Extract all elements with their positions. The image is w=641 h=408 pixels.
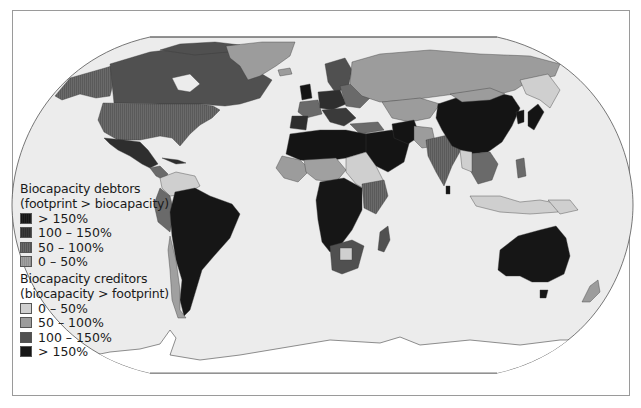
legend-item: > 150%: [20, 211, 169, 226]
legend-swatch: [20, 332, 32, 343]
legend-item: > 150%: [20, 345, 169, 360]
legend-swatch: [20, 346, 32, 357]
legend-item: 50 – 100%: [20, 240, 169, 255]
legend-swatch: [20, 256, 32, 267]
philippines: [516, 158, 526, 178]
legend-swatch: [20, 317, 32, 328]
legend-debtors-subtitle: (footprint > biocapacity): [20, 196, 169, 211]
uk: [300, 84, 312, 100]
legend-label: 0 – 50%: [38, 254, 88, 269]
legend-label: > 150%: [38, 211, 88, 226]
botswana: [340, 248, 352, 260]
legend-swatch: [20, 303, 32, 314]
legend-item: 100 – 150%: [20, 330, 169, 345]
legend-item: 100 – 150%: [20, 226, 169, 241]
legend-creditors-title: Biocapacity creditors: [20, 271, 169, 286]
sri-lanka: [446, 186, 450, 194]
legend-swatch: [20, 242, 32, 253]
legend-label: 50 – 100%: [38, 240, 104, 255]
legend-item: 50 – 100%: [20, 316, 169, 331]
legend-item: 0 – 50%: [20, 255, 169, 270]
legend-creditors-subtitle: (biocapacity > footprint): [20, 286, 169, 301]
legend-label: 100 – 150%: [38, 330, 112, 345]
legend-swatch: [20, 213, 32, 224]
legend-debtors-title: Biocapacity debtors: [20, 181, 169, 196]
legend-label: 100 – 150%: [38, 225, 112, 240]
iberia: [290, 116, 308, 130]
legend-label: 0 – 50%: [38, 301, 88, 316]
legend-label: > 150%: [38, 344, 88, 359]
legend-swatch: [20, 227, 32, 238]
legend: Biocapacity debtors (footprint > biocapa…: [20, 181, 169, 359]
legend-label: 50 – 100%: [38, 315, 104, 330]
legend-item: 0 – 50%: [20, 301, 169, 316]
